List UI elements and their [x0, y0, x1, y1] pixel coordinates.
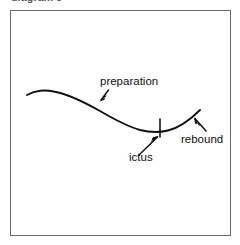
- label-ictus: ictus: [129, 151, 153, 163]
- preparation-arrow: [100, 90, 109, 102]
- gesture-curve-svg: [0, 0, 240, 245]
- rebound-arrow: [194, 117, 206, 131]
- figure-root: diagram 5 preparation ictus rebound: [0, 0, 240, 245]
- label-rebound: rebound: [181, 133, 223, 145]
- label-preparation: preparation: [100, 75, 158, 87]
- gesture-curve-path: [27, 91, 200, 132]
